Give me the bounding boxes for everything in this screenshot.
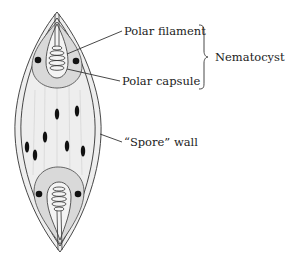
capsule-nucleus-dot <box>36 191 43 198</box>
label-nematocyst: Nematocyst <box>215 50 285 64</box>
label-spore-wall: “Spore” wall <box>124 135 198 149</box>
label-polar-filament: Polar filament <box>124 24 206 38</box>
spore-wall-leader <box>100 134 122 142</box>
bottom-nematocyst <box>34 167 84 250</box>
label-polar-capsule: Polar capsule <box>122 74 201 88</box>
capsule-nucleus-dot <box>75 191 82 198</box>
capsule-nucleus-dot <box>35 57 42 64</box>
capsule-nucleus-dot <box>73 58 80 65</box>
spore-diagram: Polar filament Polar capsule Nematocyst … <box>0 0 294 268</box>
